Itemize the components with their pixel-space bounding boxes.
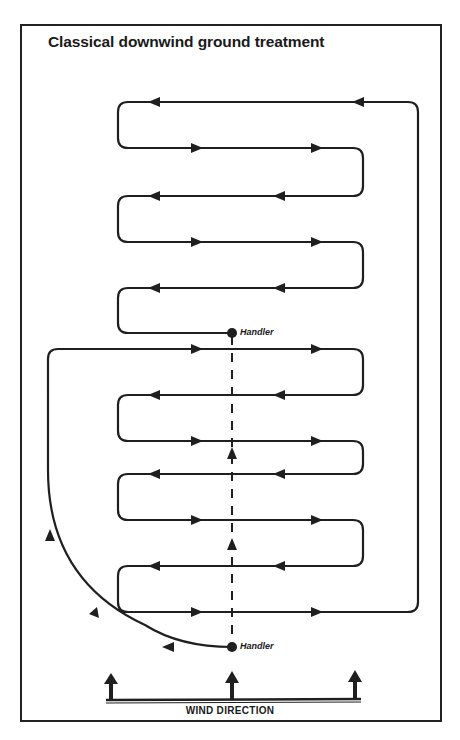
wind-direction-indicator (104, 670, 362, 703)
flight-path-diagram (0, 0, 460, 740)
wind-direction-label: WIND DIRECTION (0, 705, 460, 716)
upper-handler-dot (227, 328, 237, 338)
lower-handler-label: Handler (240, 641, 274, 651)
lower-handler-dot (227, 642, 237, 652)
upper-handler-label: Handler (240, 327, 274, 337)
